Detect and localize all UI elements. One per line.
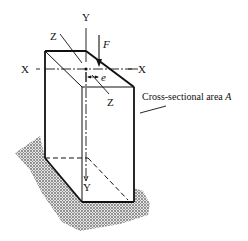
centroid-point: [84, 67, 87, 70]
column-diagram: Y Z X X Z Y F e Cross-sectional area A: [0, 0, 248, 241]
eccentricity-label: e: [101, 71, 106, 83]
y-top-label: Y: [82, 11, 90, 23]
x-left-label: X: [21, 63, 29, 75]
area-leader-line: [140, 106, 166, 113]
area-caption: Cross-sectional area A: [142, 91, 232, 102]
area-symbol: A: [224, 91, 232, 102]
force-label: F: [102, 38, 110, 50]
z-top-label: Z: [50, 30, 57, 42]
area-caption-text: Cross-sectional area: [142, 91, 223, 102]
z-bottom-label: Z: [107, 96, 114, 108]
x-right-label: X: [138, 63, 146, 75]
y-bottom-label: Y: [83, 181, 91, 193]
